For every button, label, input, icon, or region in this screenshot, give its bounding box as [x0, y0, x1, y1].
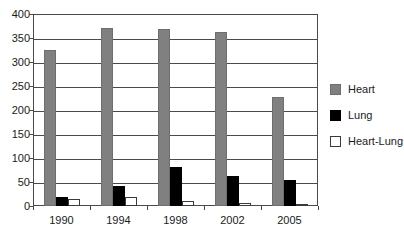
x-tick-label-1990: 1990: [33, 211, 90, 229]
plot-area: [33, 14, 318, 206]
x-tick-mark: [261, 206, 262, 210]
x-tick-label-1998: 1998: [147, 211, 204, 229]
gridline: [34, 87, 317, 88]
legend-label: Heart: [348, 84, 375, 95]
x-tick-mark: [204, 206, 205, 210]
gridline: [34, 159, 317, 160]
legend-item-lung: Lung: [330, 102, 404, 128]
x-tick-mark: [318, 206, 319, 210]
y-tick-label: 200: [2, 105, 30, 116]
gridline: [34, 111, 317, 112]
y-axis: 050100150200250300350400: [0, 14, 30, 206]
legend: HeartLungHeart-Lung: [330, 76, 404, 154]
y-tick-label: 400: [2, 9, 30, 20]
legend-label: Heart-Lung: [348, 136, 403, 147]
legend-swatch-icon: [330, 110, 341, 121]
y-tick-label: 150: [2, 129, 30, 140]
legend-item-heart-lung: Heart-Lung: [330, 128, 404, 154]
x-tick-label-1994: 1994: [90, 211, 147, 229]
x-tick-mark: [33, 206, 34, 210]
y-tick-label: 300: [2, 57, 30, 68]
gridline: [34, 63, 317, 64]
legend-label: Lung: [348, 110, 372, 121]
y-tick-label: 100: [2, 153, 30, 164]
gridline: [34, 135, 317, 136]
x-tick-label-2005: 2005: [261, 211, 318, 229]
y-tick-label: 0: [2, 201, 30, 212]
y-tick-label: 50: [2, 177, 30, 188]
legend-swatch-icon: [330, 136, 341, 147]
x-tick-mark: [90, 206, 91, 210]
legend-item-heart: Heart: [330, 76, 404, 102]
gridline: [34, 39, 317, 40]
y-tick-label: 250: [2, 81, 30, 92]
y-tick-label: 350: [2, 33, 30, 44]
bar-chart: 050100150200250300350400 199019941998200…: [0, 0, 404, 242]
x-tick-label-2002: 2002: [204, 211, 261, 229]
gridline: [34, 183, 317, 184]
legend-swatch-icon: [330, 84, 341, 95]
x-tick-mark: [147, 206, 148, 210]
x-axis: 19901994199820022005: [33, 211, 318, 229]
